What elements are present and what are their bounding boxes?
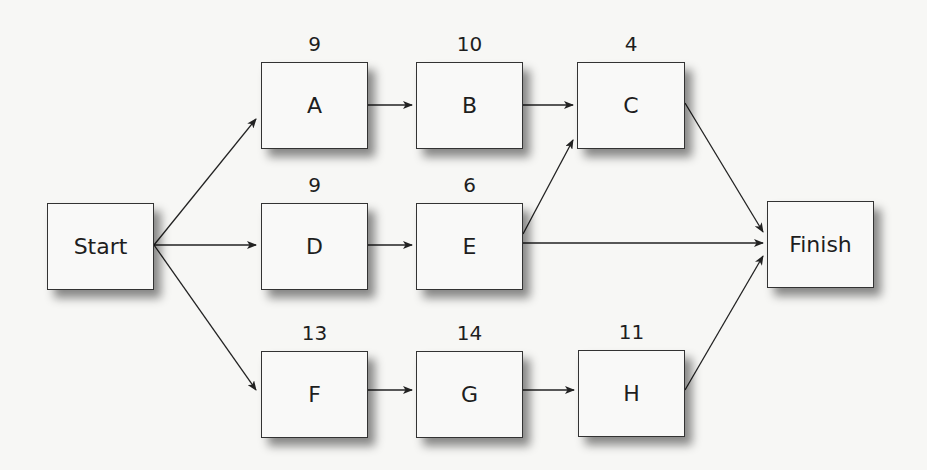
node-start: Start (47, 203, 154, 290)
duration-C: 4 (577, 32, 685, 56)
duration-D: 9 (261, 173, 368, 197)
node-label: B (462, 93, 477, 118)
node-G: G (416, 351, 523, 438)
node-label: A (307, 93, 322, 118)
edge-start-to-A (154, 119, 256, 245)
node-B: B (416, 62, 523, 149)
node-label: D (306, 234, 323, 259)
node-H: H (578, 350, 685, 437)
duration-F: 13 (261, 321, 368, 345)
node-C: C (577, 62, 685, 149)
node-F: F (261, 351, 368, 438)
node-label: E (463, 234, 477, 259)
duration-H: 11 (578, 320, 685, 344)
node-D: D (261, 203, 368, 290)
node-label: Start (74, 234, 128, 259)
duration-A: 9 (261, 32, 368, 56)
edge-E-to-C (523, 140, 573, 234)
node-label: G (461, 382, 478, 407)
edge-H-to-finish (685, 256, 763, 390)
duration-B: 10 (416, 32, 523, 56)
node-E: E (416, 203, 523, 290)
edge-start-to-F (154, 245, 256, 390)
node-label: Finish (789, 232, 852, 257)
edge-C-to-finish (685, 103, 763, 232)
node-A: A (261, 62, 368, 149)
node-label: H (623, 381, 640, 406)
node-finish: Finish (767, 201, 874, 288)
node-label: C (623, 93, 638, 118)
node-label: F (308, 382, 321, 407)
duration-G: 14 (416, 321, 523, 345)
network-diagram: StartA9B10C4D9E6F13G14H11Finish (0, 0, 927, 470)
duration-E: 6 (416, 173, 523, 197)
